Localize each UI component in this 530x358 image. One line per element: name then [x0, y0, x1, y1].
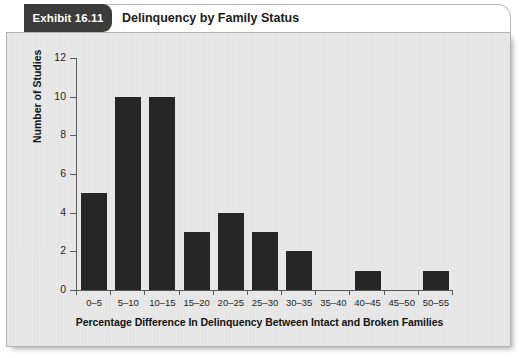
bar — [423, 271, 449, 290]
x-axis-tick — [384, 290, 385, 295]
x-axis-category-label: 40–45 — [350, 297, 384, 308]
x-axis-category-label: 50–55 — [419, 297, 453, 308]
y-axis-tick: 2 — [70, 251, 76, 252]
x-axis-category-label: 5–10 — [111, 297, 145, 308]
bars-layer — [77, 58, 453, 290]
y-axis-tick-label: 4 — [60, 206, 66, 218]
x-axis-tick — [110, 290, 111, 295]
bar — [355, 271, 381, 290]
x-axis-tick — [315, 290, 316, 295]
bar — [81, 193, 107, 290]
x-axis-category-label: 15–20 — [180, 297, 214, 308]
bar — [286, 251, 312, 290]
y-axis-tick: 4 — [70, 213, 76, 214]
y-axis-tick: 12 — [70, 58, 76, 59]
y-axis-tick: 8 — [70, 135, 76, 136]
x-axis-line — [76, 290, 453, 291]
x-axis-tick — [144, 290, 145, 295]
exhibit-figure: Exhibit 16.11 Delinquency by Family Stat… — [0, 0, 530, 358]
bar — [218, 213, 244, 290]
x-axis-title: Percentage Difference In Delinquency Bet… — [7, 316, 512, 328]
x-axis-tick — [418, 290, 419, 295]
bar — [252, 232, 278, 290]
y-axis-tick-label: 12 — [54, 51, 66, 63]
bar — [184, 232, 210, 290]
y-axis-title: Number of Studies — [31, 127, 43, 143]
y-axis-tick-label: 0 — [60, 283, 66, 295]
x-axis-tick — [76, 290, 77, 295]
exhibit-number-label: Exhibit 16.11 — [33, 12, 104, 24]
y-axis-tick: 10 — [70, 97, 76, 98]
x-axis-tick — [247, 290, 248, 295]
y-axis-tick-label: 8 — [60, 128, 66, 140]
x-axis-tick — [349, 290, 350, 295]
y-axis-tick-label: 10 — [54, 90, 66, 102]
chart-panel: 024681012 0–55–1010–1515–2020–2525–3030–… — [6, 32, 511, 347]
x-axis-category-label: 45–50 — [385, 297, 419, 308]
bar — [149, 97, 175, 290]
y-axis-tick: 6 — [70, 174, 76, 175]
exhibit-number-tab: Exhibit 16.11 — [24, 4, 112, 32]
y-axis-tick-label: 6 — [60, 167, 66, 179]
x-axis-category-label: 25–30 — [248, 297, 282, 308]
y-axis-tick-label: 2 — [60, 244, 66, 256]
x-axis-tick — [179, 290, 180, 295]
x-axis-category-label: 30–35 — [282, 297, 316, 308]
x-axis-category-label: 35–40 — [316, 297, 350, 308]
plot-area: 024681012 0–55–1010–1515–2020–2525–3030–… — [7, 33, 512, 348]
x-axis-category-label: 20–25 — [214, 297, 248, 308]
exhibit-title: Delinquency by Family Status — [122, 4, 299, 32]
bar — [115, 97, 141, 290]
x-axis-tick — [452, 290, 453, 295]
x-axis-tick — [281, 290, 282, 295]
x-axis-category-label: 10–15 — [145, 297, 179, 308]
x-axis-category-label: 0–5 — [77, 297, 111, 308]
x-axis-tick — [213, 290, 214, 295]
